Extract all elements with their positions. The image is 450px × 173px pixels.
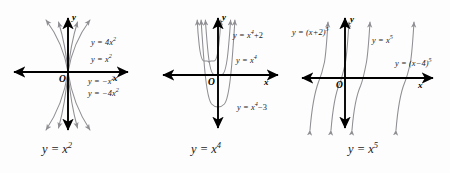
- curve-y-equals-x-fifth-left-shift: [331, 22, 349, 130]
- label-y-equals-x-fifth: y = x5: [372, 37, 393, 45]
- curve-y-equals-x-fourth-left: [205, 20, 218, 75]
- label-y-equals-x-fourth: y = x4: [236, 57, 257, 65]
- curve-y-equals-x-fifth: [352, 22, 370, 130]
- curve-y-equals-x-plus-2-fifth: [310, 22, 328, 130]
- label-y-equals-x-minus-4-fifth: y = (x−4)5: [395, 60, 432, 68]
- label-y-equals-x-plus-2-fifth: y = (x+2)5: [292, 29, 329, 37]
- origin-label: O: [59, 75, 66, 85]
- polynomial-graphs-figure: y x O y = 4x2 y = x2 y = −x2 y = −4x2 y …: [0, 0, 450, 173]
- label-y-equals-4x-squared: y = 4x2: [91, 39, 116, 47]
- quadratic-axes: [14, 18, 128, 130]
- origin-label: O: [208, 78, 215, 88]
- caption-quartic: y = x4: [191, 143, 221, 156]
- caption-quintic: y = x5: [348, 143, 378, 156]
- label-y-equals-x-fourth-minus-3: y = x4−3: [237, 104, 267, 112]
- panel-quintic: y x O y = (x+2)5 y = x5 y = (x−4)5 y = x…: [290, 0, 450, 173]
- label-y-equals-negative-x-squared: y = −x2: [88, 78, 115, 86]
- quintic-curves: [310, 22, 414, 130]
- x-axis-label: x: [264, 78, 269, 87]
- label-y-equals-x-fourth-plus-2: y = x4+2: [233, 32, 263, 40]
- y-axis-label: y: [350, 15, 354, 24]
- quadratic-plot: [0, 0, 150, 173]
- caption-quadratic: y = x2: [42, 143, 72, 156]
- curve-y-equals-x-fourth-plus-2-right: [209, 20, 221, 62]
- x-axis-label: x: [418, 81, 423, 90]
- y-axis-label: y: [222, 13, 226, 22]
- label-y-equals-negative-4x-squared: y = −4x2: [88, 90, 119, 98]
- curve-y-equals-x-minus-4-fifth: [396, 22, 414, 130]
- label-y-equals-x-squared: y = x2: [91, 56, 112, 64]
- panel-quartic: y x O y = x4+2 y = x4 y = x4−3 y = x4: [145, 0, 295, 173]
- quartic-curves: [197, 20, 235, 107]
- origin-label: O: [336, 81, 343, 91]
- y-axis-label: y: [72, 13, 76, 22]
- panel-quadratic: y x O y = 4x2 y = x2 y = −x2 y = −4x2 y …: [0, 0, 150, 173]
